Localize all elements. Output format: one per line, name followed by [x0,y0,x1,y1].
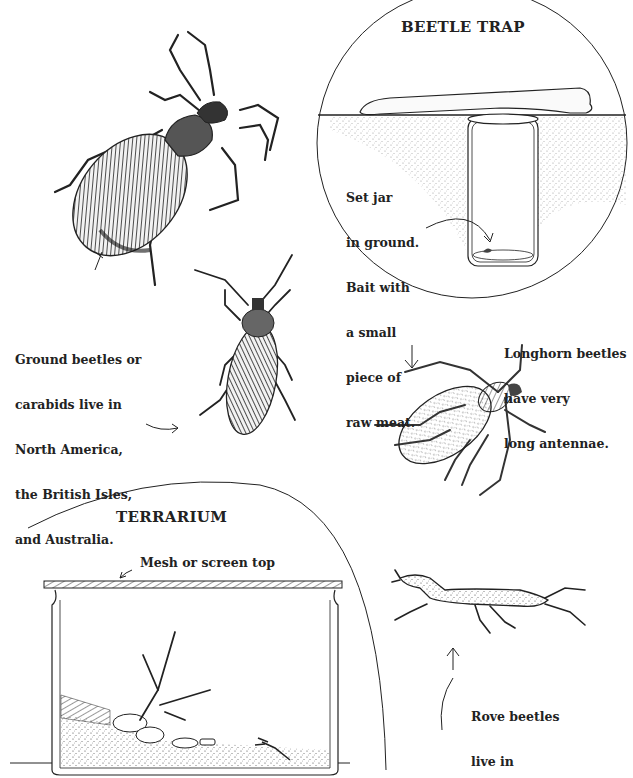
ground-beetle-caption: Ground beetles or carabids live in North… [15,322,141,562]
longhorn-caption: Longhorn beetles have very long antennae… [504,316,627,466]
caption-line: Bait with [346,280,419,295]
caption-line: live in [471,754,604,769]
caption-line: North America, [15,442,141,457]
ground-beetle-small-illustration [146,255,295,438]
caption-line: have very [504,391,627,406]
caption-line: long antennae. [504,436,627,451]
caption-line: Longhorn beetles [504,346,627,361]
terrarium-lid-label: Mesh or screen top [140,555,275,570]
caption-line: Ground beetles or [15,352,141,367]
caption-line: raw meat. [346,415,419,430]
caption-line: the British Isles, [15,487,141,502]
beetle-trap-title: BEETLE TRAP [401,18,525,36]
caption-line: Rove beetles [471,709,604,724]
caption-line: Set jar [346,190,419,205]
caption-line: a small [346,325,419,340]
caption-line: and Australia. [15,532,141,547]
ground-beetle-large-illustration [50,32,278,285]
beetle-trap-caption: Set jar in ground. Bait with a small pie… [346,160,419,445]
caption-line: carabids live in [15,397,141,412]
caption-line: in ground. [346,235,419,250]
rove-beetle-caption: Rove beetles live in the British Isles, … [471,679,604,778]
caption-line: piece of [346,370,419,385]
terrarium-title: TERRARIUM [116,508,227,526]
